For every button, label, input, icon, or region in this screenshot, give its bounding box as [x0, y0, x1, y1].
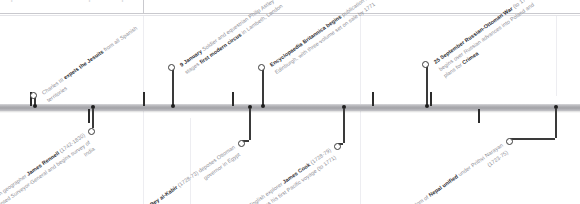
- event-elbow-nepal: [510, 138, 556, 140]
- timeline-tick-below-0: [88, 109, 90, 123]
- header-ghost-right: 1769: [150, 0, 190, 3]
- event-axis-dot-jesuits: [33, 104, 37, 108]
- event-caption-nepal: Kingdom of Nepal unified under Prithvi N…: [395, 141, 510, 204]
- event-node-ring-britannica[interactable]: [258, 64, 265, 71]
- event-node-ring-cook[interactable]: [334, 143, 341, 150]
- event-axis-dot-russo-ottoman: [425, 104, 429, 108]
- column-rule-4: [556, 16, 557, 96]
- header-rule-primary: [0, 13, 580, 14]
- event-caption-jesuits: Charles III expels the Jesuits from all …: [40, 17, 155, 104]
- timeline-axis-bar: [0, 104, 580, 111]
- event-stem-nepal: [555, 109, 557, 138]
- event-node-ring-circus[interactable]: [168, 64, 175, 71]
- event-axis-dot-ali-bey: [248, 105, 252, 109]
- event-axis-dot-nepal: [554, 105, 558, 109]
- event-stem-britannica: [262, 68, 264, 106]
- event-axis-dot-britannica: [261, 104, 265, 108]
- event-stem-circus: [172, 68, 174, 106]
- header-ghost-left: Spread continues from previous page: [6, 0, 126, 3]
- event-caption-rennell: English geographer James Rennell (1742-1…: [0, 131, 97, 204]
- event-axis-dot-cook: [342, 105, 346, 109]
- event-node-ring-ali-bey[interactable]: [238, 140, 245, 147]
- event-stem-cook: [343, 109, 345, 143]
- timeline-tick-above-1: [143, 92, 145, 106]
- timeline-tick-below-3: [478, 109, 480, 123]
- event-node-ring-russo-ottoman[interactable]: [422, 61, 429, 68]
- event-node-ring-rennell[interactable]: [88, 128, 95, 135]
- timeline-tick-above-2: [232, 92, 234, 106]
- timeline-tick-above-3: [372, 92, 374, 106]
- event-caption-ali-bey: Ali Bey al-Kabir (1728-73) deposes Ottom…: [127, 143, 242, 204]
- header-column-divider: [143, 0, 144, 14]
- event-node-ring-jesuits[interactable]: [30, 92, 37, 99]
- event-stem-russo-ottoman: [426, 65, 428, 106]
- timeline-tick-above-4: [430, 92, 432, 106]
- event-node-ring-nepal[interactable]: [506, 138, 513, 145]
- timeline-axis-shadow: [0, 111, 580, 113]
- timeline-page: Spread continues from previous page 1769…: [0, 0, 580, 204]
- event-axis-dot-circus: [171, 104, 175, 108]
- event-stem-ali-bey: [249, 109, 251, 140]
- event-axis-dot-rennell: [91, 105, 95, 109]
- event-stem-rennell: [92, 109, 94, 128]
